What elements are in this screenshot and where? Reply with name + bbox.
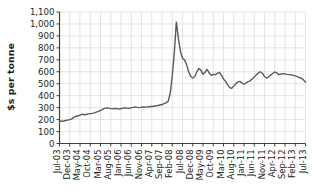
y-axis-title: $s per tonne (5, 43, 16, 111)
x-tick-label: Aug-10 (226, 150, 236, 180)
y-tick-label: 200 (38, 115, 54, 125)
chart-container: 01002003004005006007008009001,0001,100 J… (0, 0, 316, 194)
line-chart: 01002003004005006007008009001,0001,100 J… (0, 0, 316, 194)
y-tick-label: 1,000 (30, 19, 55, 29)
y-axis-label-layer: $s per tonne (5, 43, 16, 111)
x-tick-label: Jun-11 (246, 150, 256, 178)
y-tick-label: 600 (38, 67, 54, 77)
x-tick-label: Mar-05 (93, 150, 103, 179)
y-tick-label: 0 (49, 139, 54, 149)
y-tick-label: 400 (38, 91, 54, 101)
x-tick-label: May-04 (72, 150, 82, 181)
x-tick-label: Sep-12 (277, 150, 287, 179)
x-tick-label: Sep-07 (154, 150, 164, 179)
y-tick-label: 300 (38, 103, 54, 113)
x-tick-label: Nov-11 (257, 150, 267, 180)
x-tick-label: Jan-11 (236, 150, 246, 178)
x-tick-label: Mar-10 (216, 150, 226, 179)
x-tick-label: Jan-06 (113, 150, 123, 178)
x-tick-label: Feb-13 (287, 150, 297, 179)
y-tick-label: 900 (38, 31, 54, 41)
x-tick-label: Apr-12 (267, 150, 277, 178)
x-tick-label: Aug-05 (103, 150, 113, 180)
x-tick-label: Dec-08 (185, 150, 195, 180)
x-tick-label: Jul-08 (175, 150, 185, 175)
x-tick-label: Apr-07 (144, 150, 154, 178)
x-tick-label: Oct-04 (82, 150, 92, 178)
x-tick-label: Jul-13 (298, 150, 308, 175)
x-tick-label: Dec-03 (62, 150, 72, 180)
x-tick-label: May-09 (195, 150, 205, 181)
x-tick-label: Oct-09 (205, 150, 215, 178)
y-tick-label: 800 (38, 43, 54, 53)
y-tick-label: 700 (38, 55, 54, 65)
y-tick-label: 100 (38, 127, 54, 137)
y-tick-label: 1,100 (30, 7, 55, 17)
x-tick-label: Nov-06 (134, 150, 144, 180)
x-tick-label: Jun-06 (123, 150, 133, 178)
x-tick-label: Feb-08 (164, 150, 174, 179)
y-tick-label: 500 (38, 79, 54, 89)
x-tick-label: Jul-03 (52, 150, 62, 175)
